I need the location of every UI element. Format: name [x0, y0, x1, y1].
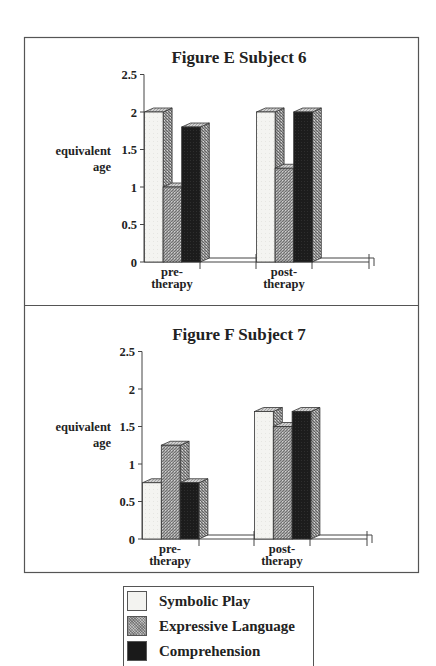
legend-label: Symbolic Play — [159, 593, 250, 610]
y-axis-label: age — [93, 160, 112, 174]
bar — [180, 479, 208, 539]
y-tick-label: 1.5 — [121, 143, 137, 157]
legend-label: Expressive Language — [159, 618, 295, 635]
legend-item-expressive-language: Expressive Language — [127, 615, 147, 637]
chart-title: Figure E Subject 6 — [171, 48, 306, 67]
legend-swatch-hatched — [127, 616, 147, 636]
x-category-label: therapy — [261, 554, 303, 568]
x-category-label: therapy — [149, 554, 191, 568]
y-tick-label: 2.5 — [121, 68, 137, 82]
bar — [294, 108, 322, 262]
chart-figure-f: Figure F Subject 7equivalentage00.511.52… — [55, 325, 372, 568]
bar — [182, 123, 210, 262]
legend-item-symbolic-play: Symbolic Play — [127, 590, 147, 612]
legend-label: Comprehension — [159, 643, 260, 660]
chart-title: Figure F Subject 7 — [172, 325, 306, 344]
chart-figure-e: Figure E Subject 6equivalentage00.511.52… — [55, 48, 374, 291]
y-tick-label: 2.5 — [119, 345, 135, 359]
y-axis-label: equivalent — [55, 144, 111, 158]
legend: Symbolic Play Expressive Language Compre… — [123, 586, 314, 666]
x-category-label: therapy — [263, 277, 305, 291]
y-axis-label: equivalent — [55, 420, 111, 434]
bar — [292, 408, 320, 540]
y-tick-label: 2 — [129, 383, 135, 397]
legend-swatch-light — [127, 591, 147, 611]
y-tick-label: 0.5 — [119, 495, 135, 509]
y-tick-label: 0 — [131, 256, 137, 270]
legend-item-comprehension: Comprehension — [127, 640, 147, 662]
y-tick-label: 1 — [129, 458, 135, 472]
legend-swatch-dark — [127, 641, 147, 661]
y-tick-label: 1.5 — [119, 420, 135, 434]
x-category-label: therapy — [151, 277, 193, 291]
y-tick-label: 0.5 — [121, 218, 137, 232]
y-tick-label: 0 — [129, 533, 135, 547]
y-tick-label: 2 — [131, 106, 137, 120]
y-tick-label: 1 — [131, 181, 137, 195]
y-axis-label: age — [93, 436, 112, 450]
